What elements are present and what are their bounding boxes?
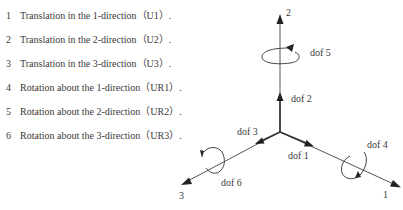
- dof5-rotation-icon: [262, 48, 299, 64]
- axis-1-arrow-icon: [390, 180, 401, 188]
- axis-2-label: 2: [286, 7, 291, 18]
- axis-3-arrow-icon: [181, 178, 192, 186]
- dof-axes-diagram: 2 1 3 dof 2 dof 1 dof 3 dof 5 dof 4 dof …: [0, 0, 403, 210]
- dof3-label: dof 3: [237, 126, 258, 137]
- dof1-arrow-icon: [304, 140, 314, 147]
- dof5-label: dof 5: [310, 47, 331, 58]
- axis-1-label: 1: [383, 189, 388, 200]
- axis-2-arrow-icon: [277, 14, 284, 24]
- dof2-label: dof 2: [291, 93, 312, 104]
- axis-3-label: 3: [179, 190, 184, 201]
- dof1-label: dof 1: [288, 150, 309, 161]
- dof2-arrow-icon: [277, 92, 284, 101]
- dof6-label: dof 6: [221, 177, 242, 188]
- dof6-rotation-icon: [204, 148, 224, 174]
- dof4-label: dof 4: [367, 139, 388, 150]
- dof3-arrow-icon: [255, 138, 265, 145]
